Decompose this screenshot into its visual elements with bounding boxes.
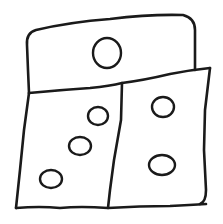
dot-left-3 [40, 170, 62, 188]
dot-right-2 [149, 155, 175, 175]
top-panel-outline [27, 15, 195, 93]
bottom-edge [16, 204, 206, 208]
sketch-drawing [0, 0, 223, 224]
vertical-divider [108, 83, 122, 208]
dot-left-1 [88, 107, 108, 125]
horizontal-divider [29, 68, 210, 93]
dot-left-2 [69, 137, 91, 155]
left-panel-outline [16, 93, 29, 208]
dot-top [93, 38, 121, 68]
right-panel-outline [200, 68, 210, 204]
dot-right-1 [152, 97, 174, 117]
